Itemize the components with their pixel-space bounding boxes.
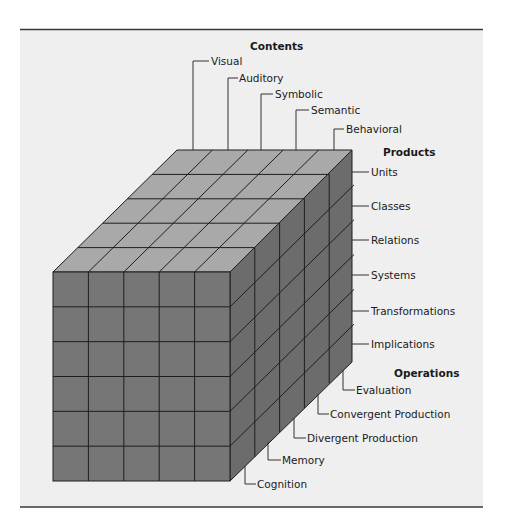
products-label-systems: Systems <box>371 269 416 281</box>
products-header: Products <box>383 146 436 158</box>
contents-header: Contents <box>250 40 303 52</box>
operations-label-cognition: Cognition <box>257 478 307 490</box>
products-label-transformations: Transformations <box>370 305 455 317</box>
contents-label-symbolic: Symbolic <box>275 88 323 100</box>
operations-label-evaluation: Evaluation <box>356 384 411 396</box>
contents-label-visual: Visual <box>211 55 242 67</box>
products-label-classes: Classes <box>371 200 411 212</box>
products-label-units: Units <box>371 166 398 178</box>
products-label-implications: Implications <box>371 338 435 350</box>
operations-label-memory: Memory <box>282 454 325 466</box>
contents-label-behavioral: Behavioral <box>346 123 402 135</box>
operations-header: Operations <box>394 367 459 379</box>
operations-label-convergent-production: Convergent Production <box>330 408 450 420</box>
structure-of-intellect-diagram: Contents Products Operations Visual Audi… <box>0 0 505 526</box>
contents-label-semantic: Semantic <box>311 104 360 116</box>
contents-label-auditory: Auditory <box>239 72 284 84</box>
products-label-relations: Relations <box>371 234 419 246</box>
operations-label-divergent-production: Divergent Production <box>307 432 418 444</box>
